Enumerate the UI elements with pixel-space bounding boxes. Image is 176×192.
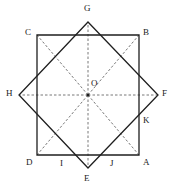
intersection-label-i: I (60, 159, 63, 168)
vertex-label-d: D (26, 158, 33, 167)
ray-o-to-d (37, 95, 88, 155)
ray-o-to-a (88, 95, 139, 155)
center-label-o: O (91, 79, 98, 88)
ray-o-to-c (37, 35, 88, 95)
vertex-label-f: F (162, 89, 167, 98)
geometry-figure: G C B H O F K D A I J E (0, 0, 176, 192)
vertex-label-c: C (25, 28, 31, 37)
vertex-label-h: H (6, 89, 13, 98)
intersection-label-k: K (143, 116, 150, 125)
vertex-label-b: B (143, 28, 149, 37)
vertex-label-g: G (84, 4, 91, 13)
vertex-label-e: E (84, 174, 90, 183)
intersection-label-j: J (110, 159, 114, 168)
center-point-marker (86, 93, 89, 96)
vertex-label-a: A (143, 158, 150, 167)
